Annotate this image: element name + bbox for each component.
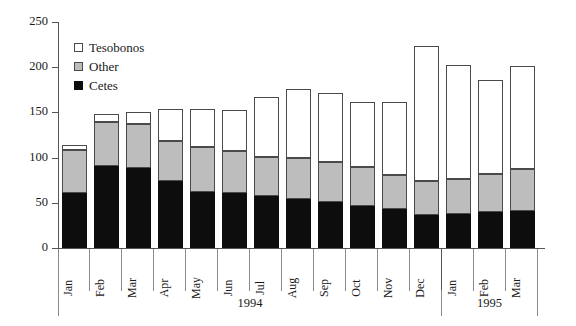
bar-group (62, 22, 87, 248)
bar-segment-cetes (478, 212, 503, 248)
bar-group (222, 22, 247, 248)
bar-segment-other (190, 147, 215, 192)
x-axis-month-cell: Dec (410, 249, 442, 291)
bar-group (190, 22, 215, 248)
bar-segment-tesobonos (478, 80, 503, 174)
x-axis-month-cell: Jun (218, 249, 250, 291)
bar-segment-other (254, 157, 279, 196)
x-axis-year-label: 1995 (477, 297, 502, 310)
bar-segment-tesobonos (126, 112, 151, 124)
y-axis-tick-label: 100 (0, 151, 48, 164)
x-axis-month-cell: Mar (506, 249, 538, 291)
bar-segment-cetes (446, 214, 471, 248)
bar-segment-cetes (318, 202, 343, 248)
bar-group (254, 22, 279, 248)
bar-group (126, 22, 151, 248)
bar-segment-other (286, 158, 311, 200)
bar-segment-tesobonos (190, 109, 215, 147)
x-axis-month-cell: Mar (122, 249, 154, 291)
bar-segment-cetes (254, 196, 279, 248)
x-axis-month-cell: Nov (378, 249, 410, 291)
bar-segment-tesobonos (510, 66, 535, 169)
bar-segment-tesobonos (414, 46, 439, 181)
bar-segment-other (382, 175, 407, 209)
x-axis-year-cell: 1994 (58, 290, 442, 316)
bar-segment-tesobonos (254, 97, 279, 157)
x-axis-month-cell: Sep (314, 249, 346, 291)
bar-segment-other (414, 181, 439, 214)
bar-segment-tesobonos (350, 102, 375, 166)
bar-segment-other (318, 162, 343, 202)
bar-group (446, 22, 471, 248)
bar-segment-tesobonos (158, 109, 183, 142)
x-axis-year-label: 1994 (238, 297, 263, 310)
bar-segment-cetes (94, 166, 119, 248)
bar-segment-tesobonos (62, 145, 87, 150)
y-axis-tick-label: 0 (0, 241, 48, 254)
x-axis-month-cell: May (186, 249, 218, 291)
bar-segment-tesobonos (382, 102, 407, 175)
bar-segment-cetes (510, 211, 535, 248)
bar-group (350, 22, 375, 248)
x-axis-month-cell: Feb (474, 249, 506, 291)
bar-segment-other (446, 179, 471, 213)
bar-segment-other (222, 151, 247, 193)
bar-segment-other (350, 167, 375, 206)
bar-group (414, 22, 439, 248)
x-axis-month-cell: Aug (282, 249, 314, 291)
bar-segment-cetes (62, 193, 87, 248)
bar-segment-cetes (414, 215, 439, 248)
bar-segment-other (62, 150, 87, 192)
x-axis-month-cell: Apr (154, 249, 186, 291)
stacked-bar-chart: 050100150200250 Tesobonos Other Cetes Ja… (0, 0, 576, 326)
bar-segment-tesobonos (222, 110, 247, 152)
x-axis-year-labels: 19941995 (58, 290, 545, 316)
y-axis-tick-label: 50 (0, 196, 48, 209)
plot-area (58, 22, 545, 248)
bar-segment-other (94, 122, 119, 165)
bar-group (510, 22, 535, 248)
x-axis-month-cell: Oct (346, 249, 378, 291)
bar-segment-other (126, 124, 151, 167)
bar-segment-tesobonos (446, 65, 471, 179)
y-axis-tick-label: 200 (0, 60, 48, 73)
bar-segment-cetes (286, 199, 311, 248)
x-axis-year-cell: 1995 (442, 290, 538, 316)
y-axis-tick-label: 150 (0, 105, 48, 118)
x-axis-month-cell: Jul (250, 249, 282, 291)
bar-segment-cetes (126, 168, 151, 248)
bar-segment-cetes (222, 193, 247, 248)
bar-segment-cetes (158, 181, 183, 248)
x-axis-month-cell: Feb (90, 249, 122, 291)
x-axis-month-cell: Jan (442, 249, 474, 291)
y-axis-tick-label: 250 (0, 15, 48, 28)
bar-group (318, 22, 343, 248)
bar-group (478, 22, 503, 248)
bar-segment-tesobonos (94, 114, 119, 122)
x-axis-month-cell: Jan (58, 249, 90, 291)
bar-segment-other (478, 174, 503, 212)
bar-segment-other (510, 169, 535, 211)
bar-segment-cetes (190, 192, 215, 248)
bar-segment-tesobonos (318, 93, 343, 163)
bar-group (94, 22, 119, 248)
bar-segment-other (158, 141, 183, 181)
bar-group (286, 22, 311, 248)
bar-segment-cetes (382, 209, 407, 248)
bar-group (158, 22, 183, 248)
x-axis-month-labels: JanFebMarAprMayJunJulAugSepOctNovDecJanF… (58, 248, 545, 291)
bar-group (382, 22, 407, 248)
bar-segment-tesobonos (286, 89, 311, 158)
bar-segment-cetes (350, 206, 375, 248)
